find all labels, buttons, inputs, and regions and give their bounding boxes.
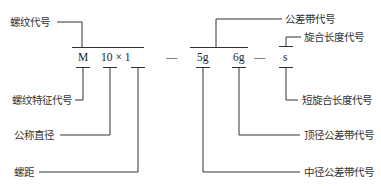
label-tolerance-code: 公差带代号	[285, 13, 335, 25]
thread-char-M: M	[78, 51, 88, 63]
crest-tolerance-6g: 6g	[233, 51, 245, 63]
label-pitch: 螺距	[14, 166, 34, 178]
pitch-tolerance-5g: 5g	[197, 51, 209, 63]
separator-dash-1: —	[166, 51, 178, 63]
label-thread-code: 螺纹代号	[10, 16, 50, 28]
label-pitch-diameter-tolerance: 中径公差带代号	[304, 166, 374, 178]
label-thread-feature-code: 螺纹特征代号	[12, 94, 72, 106]
length-code-s: s	[283, 51, 287, 63]
label-crest-diameter-tolerance: 顶径公差带代号	[304, 129, 374, 141]
label-nominal-diameter: 公称直径	[14, 129, 54, 141]
separator-dash-2: —	[254, 51, 266, 63]
size-and-pitch: 10 × 1	[101, 51, 131, 63]
connector-lines	[0, 0, 381, 186]
label-short-engagement-code: 短旋合长度代号	[302, 94, 372, 106]
label-engagement-length-code: 旋合长度代号	[304, 31, 364, 43]
